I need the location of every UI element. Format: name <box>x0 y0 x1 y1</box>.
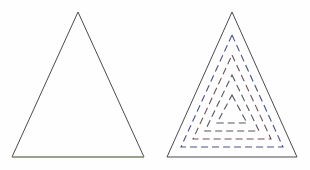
figure-canvas <box>0 0 310 170</box>
canvas-background <box>0 0 310 170</box>
triangle-figure-svg <box>0 0 310 170</box>
